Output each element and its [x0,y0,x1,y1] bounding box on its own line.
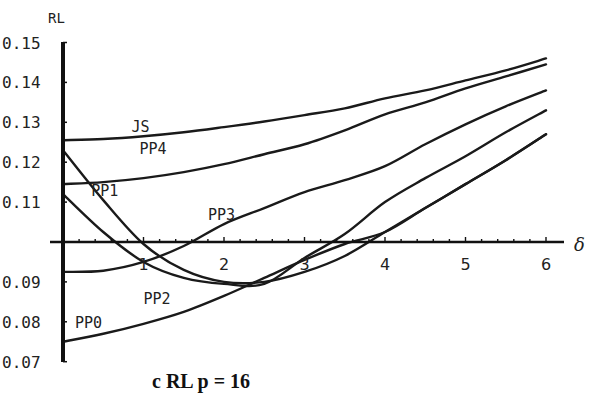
series-label-pp3: PP3 [208,206,235,224]
series-curves [63,58,546,341]
series-label-pp4: PP4 [139,140,166,158]
chart-caption: c RL p = 16 [152,370,250,393]
x-tick-label: 5 [461,255,471,274]
y-tick-label: 0.15 [2,34,41,53]
series-label-pp2: PP2 [144,290,171,308]
series-labels: JSPP4PP1PP3PP2PP0 [75,118,235,332]
x-tick-label: 6 [541,255,551,274]
axes [50,42,564,362]
line-chart: 123456 0.150.140.130.120.110.090.080.07 … [0,0,596,403]
series-label-js: JS [131,118,149,136]
y-tick-label: 0.14 [2,73,41,92]
x-tick-label: 3 [300,255,310,274]
y-axis-ticks: 0.150.140.130.120.110.090.080.07 [2,34,67,372]
y-axis-title: RL [48,10,65,26]
series-label-pp1: PP1 [91,182,118,200]
y-tick-label: 0.08 [2,313,41,332]
y-tick-label: 0.12 [2,153,41,172]
series-label-pp0: PP0 [75,314,102,332]
x-axis-title: δ [574,234,585,255]
y-tick-label: 0.11 [2,193,41,212]
y-tick-label: 0.09 [2,273,41,292]
y-tick-label: 0.07 [2,353,41,372]
y-tick-label: 0.13 [2,113,41,132]
x-tick-label: 1 [139,255,149,274]
x-tick-label: 2 [219,255,229,274]
x-tick-label: 4 [380,255,390,274]
